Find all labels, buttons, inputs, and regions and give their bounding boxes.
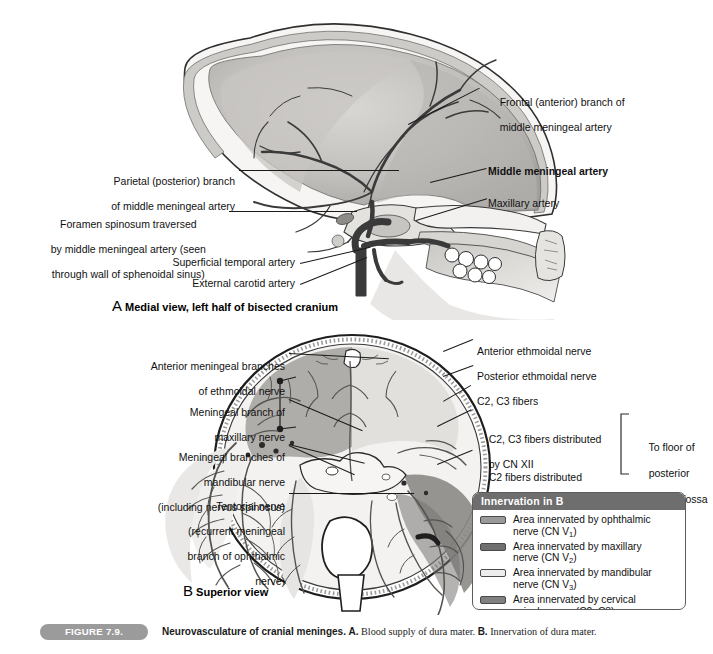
- legend-text-ophthalmic: Area innervated by ophthalmic nerve (CN …: [513, 514, 651, 538]
- figure-number-pill: FIGURE 7.9.: [40, 624, 148, 640]
- legend-mandibular-l1: Area innervated by mandibular: [513, 567, 652, 578]
- label-c2c3-cn12-l1: C2, C3 fibers distributed: [489, 433, 602, 445]
- legend-swatch-mandibular: [480, 569, 506, 577]
- legend-cervical-l1: Area innervated by cervical: [513, 594, 636, 605]
- label-mand-l2: mandibular nerve: [204, 476, 285, 488]
- legend-ophthalmic-sub: 1: [569, 530, 573, 539]
- panel-b-view-caption: B Superior view: [183, 582, 268, 599]
- panel-b-marker: B: [183, 582, 193, 599]
- legend-item-maxillary[interactable]: Area innervated by maxillary nerve (CN V…: [480, 541, 680, 565]
- figure-part-b-marker: B.: [478, 626, 488, 637]
- label-c2-cn10-l1: C2 fibers distributed: [489, 471, 582, 483]
- legend-swatch-cervical: [480, 596, 506, 604]
- label-foramen-l2: by middle meningeal artery (seen: [51, 243, 206, 255]
- legend-item-cervical[interactable]: Area innervated by cervical spinal nerve…: [480, 594, 680, 610]
- legend-innervation-in-b: Innervation in B Area innervated by opht…: [472, 492, 686, 610]
- panel-b-view-text: Superior view: [196, 586, 268, 598]
- legend-cervical-l2pre: spinal nerves (C2, C3): [513, 606, 614, 610]
- panel-a-view-caption: A Medial view, left half of bisected cra…: [112, 297, 338, 314]
- label-posterior-ethmoidal-nerve: Posterior ethmoidal nerve: [477, 370, 692, 383]
- label-max-l1: Meningeal branch of: [190, 406, 285, 418]
- label-mand-l1: Meningeal branches of: [179, 451, 285, 463]
- legend-swatch-maxillary: [480, 543, 506, 551]
- legend-mandibular-sub: 3: [569, 583, 573, 592]
- label-tent-l2: (recurrent meningeal: [188, 525, 285, 537]
- leader-tentorial: [289, 493, 414, 494]
- legend-maxillary-l2pre: nerve (CN V: [513, 552, 569, 563]
- label-parietal-branch-bold: Parietal (posterior) branch: [114, 175, 235, 187]
- legend-header: Innervation in B: [473, 493, 685, 510]
- label-frontal-branch-bold: Frontal (anterior) branch: [500, 96, 613, 108]
- legend-text-cervical: Area innervated by cervical spinal nerve…: [513, 594, 636, 610]
- label-ant-meningeal-l1: Anterior meningeal branches: [151, 360, 285, 372]
- legend-swatch-ophthalmic: [480, 516, 506, 524]
- label-tent-l3: branch of ophthalmic: [188, 550, 285, 562]
- label-anterior-ethmoidal-nerve: Anterior ethmoidal nerve: [477, 345, 692, 358]
- legend-ophthalmic-l1: Area innervated by ophthalmic: [513, 514, 651, 525]
- legend-mandibular-l2post: ): [573, 579, 576, 590]
- leader-parietal: [239, 170, 399, 171]
- legend-ophthalmic-l2post: ): [573, 526, 576, 537]
- legend-maxillary-sub: 2: [569, 556, 573, 565]
- figure-part-a-text: Blood supply of dura mater.: [361, 626, 475, 637]
- label-frontal-branch-of: of: [613, 96, 625, 108]
- legend-item-ophthalmic[interactable]: Area innervated by ophthalmic nerve (CN …: [480, 514, 680, 538]
- legend-body: Area innervated by ophthalmic nerve (CN …: [473, 510, 685, 610]
- label-middle-meningeal-artery: Middle meningeal artery: [488, 165, 698, 178]
- legend-maxillary-l2post: ): [573, 552, 576, 563]
- label-frontal-branch-rest: middle meningeal artery: [500, 121, 612, 133]
- figure-title: Neurovasculature of cranial meninges.: [162, 626, 346, 637]
- figure-caption: FIGURE 7.9. Neurovasculature of cranial …: [40, 623, 680, 645]
- legend-ophthalmic-l2pre: nerve (CN V: [513, 526, 569, 537]
- panel-a-view-text: Medial view, left half of bisected crani…: [125, 301, 338, 313]
- label-c2-c3-fibers: C2, C3 fibers: [477, 395, 692, 408]
- label-foramen-l1: Foramen spinosum traversed: [60, 218, 197, 230]
- label-frontal-branch: Frontal (anterior) branch of middle meni…: [488, 83, 693, 146]
- panel-a-medial-view: Parietal (posterior) branch of middle me…: [0, 0, 700, 320]
- label-external-carotid-artery: External carotid artery: [60, 277, 295, 290]
- label-tent-l1: Tentorial nerve: [216, 500, 285, 512]
- label-bracket-l2: posterior: [649, 467, 690, 479]
- legend-item-mandibular[interactable]: Area innervated by mandibular nerve (CN …: [480, 567, 680, 591]
- legend-text-maxillary: Area innervated by maxillary nerve (CN V…: [513, 541, 642, 565]
- figure-part-a-marker: A.: [349, 626, 359, 637]
- label-bracket-l1: To floor of: [648, 441, 694, 453]
- label-maxillary-artery: Maxillary artery: [488, 197, 688, 210]
- legend-text-mandibular: Area innervated by mandibular nerve (CN …: [513, 567, 652, 591]
- label-superficial-temporal-artery: Superficial temporal artery: [60, 256, 295, 269]
- figure-part-b-text: Innervation of dura mater.: [490, 626, 596, 637]
- panel-a-marker: A: [112, 297, 122, 314]
- figure-caption-text: Neurovasculature of cranial meninges. A.…: [162, 625, 597, 639]
- leader-foramen: [229, 211, 357, 212]
- legend-mandibular-l2pre: nerve (CN V: [513, 579, 569, 590]
- legend-maxillary-l1: Area innervated by maxillary: [513, 541, 642, 552]
